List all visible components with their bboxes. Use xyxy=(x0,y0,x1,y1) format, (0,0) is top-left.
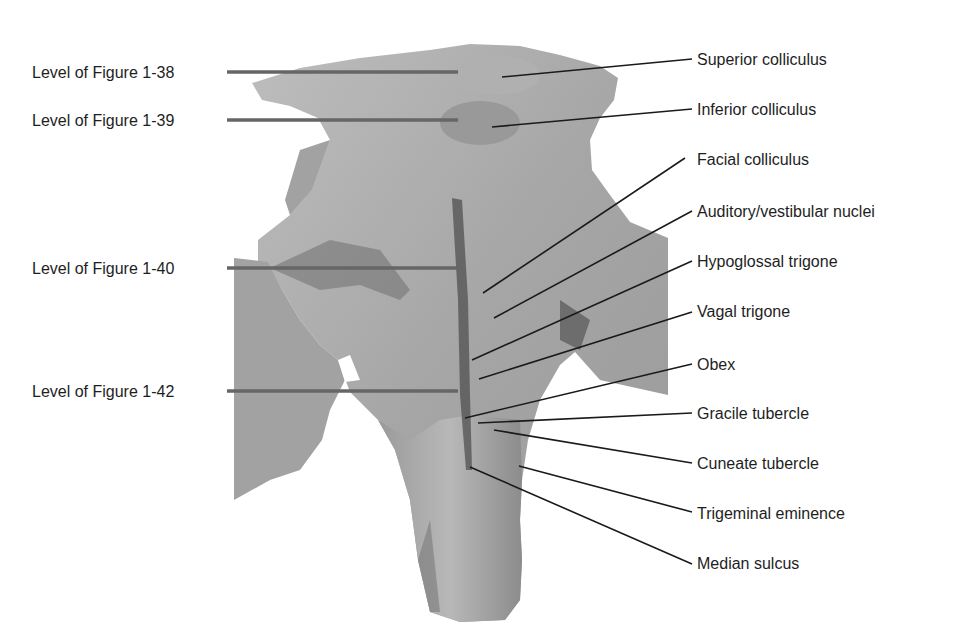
label-inferior-colliculus: Inferior colliculus xyxy=(697,101,816,118)
level-labels: Level of Figure 1-38 Level of Figure 1-3… xyxy=(32,64,174,400)
inferior-colliculus-shape xyxy=(440,101,520,145)
level-label-1-42: Level of Figure 1-42 xyxy=(32,383,174,400)
caudal-medulla-region xyxy=(378,415,522,622)
label-median-sulcus: Median sulcus xyxy=(697,555,799,572)
level-label-1-40: Level of Figure 1-40 xyxy=(32,260,174,277)
label-trigeminal-eminence: Trigeminal eminence xyxy=(697,505,845,522)
brainstem-dorsal-diagram: Level of Figure 1-38 Level of Figure 1-3… xyxy=(0,0,959,638)
brainstem-specimen xyxy=(234,44,668,622)
label-auditory-vestibular-nuclei: Auditory/vestibular nuclei xyxy=(697,203,875,220)
label-vagal-trigone: Vagal trigone xyxy=(697,303,790,320)
label-cuneate-tubercle: Cuneate tubercle xyxy=(697,455,819,472)
label-superior-colliculus: Superior colliculus xyxy=(697,51,827,68)
leader-trigeminal-eminence xyxy=(519,466,692,512)
label-facial-colliculus: Facial colliculus xyxy=(697,151,809,168)
level-label-1-39: Level of Figure 1-39 xyxy=(32,112,174,129)
level-label-1-38: Level of Figure 1-38 xyxy=(32,64,174,81)
label-gracile-tubercle: Gracile tubercle xyxy=(697,405,809,422)
structure-labels: Superior colliculus Inferior colliculus … xyxy=(697,51,875,572)
label-obex: Obex xyxy=(697,356,735,373)
label-hypoglossal-trigone: Hypoglossal trigone xyxy=(697,253,838,270)
